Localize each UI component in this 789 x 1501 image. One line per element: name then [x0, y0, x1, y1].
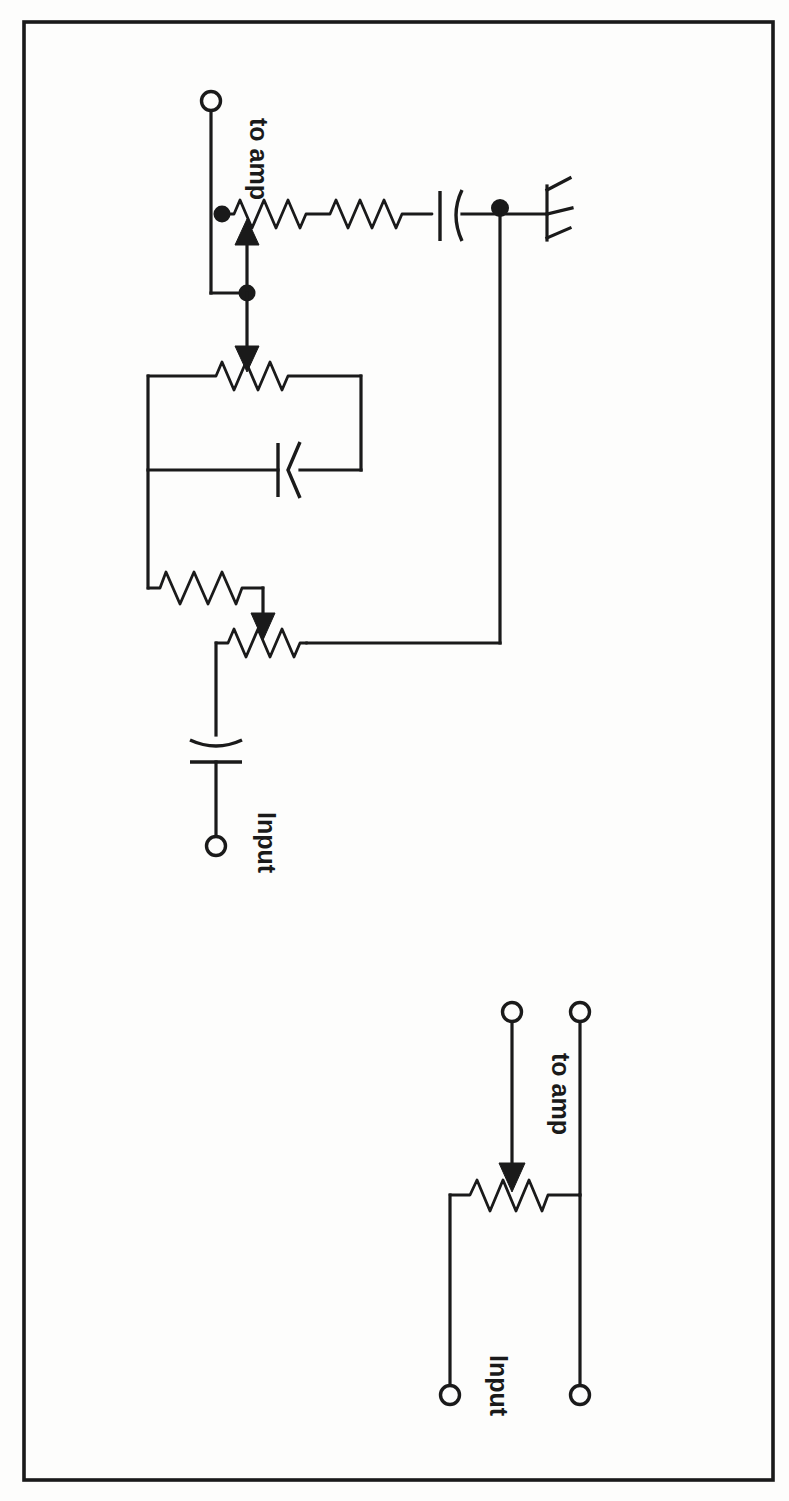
- circuit-schematic-canvas: to amp Input to amp Input: [0, 0, 789, 1501]
- input-cap-plate-curved-upper: [190, 740, 242, 746]
- schematic-page: to amp Input to amp Input: [0, 0, 789, 1501]
- input-return-terminal-lower[interactable]: [571, 1386, 590, 1405]
- series-resistor-body: [148, 572, 263, 604]
- junction-dot-treble-left: [214, 206, 231, 223]
- volume-wiper-arrow-icon-lower: [499, 1163, 525, 1192]
- to-amp-terminal-upper[interactable]: [202, 92, 221, 111]
- label-to-amp-upper: to amp: [245, 118, 273, 200]
- upper-circuit: [148, 92, 572, 856]
- label-to-amp-lower: to amp: [547, 1053, 575, 1135]
- input-terminal-lower[interactable]: [441, 1386, 460, 1405]
- to-amp-terminal-lower[interactable]: [503, 1003, 522, 1022]
- label-input-upper: Input: [253, 812, 281, 874]
- bass-pot-resistor-body: [148, 362, 361, 390]
- to-amp-return-terminal-lower[interactable]: [571, 1003, 590, 1022]
- ground-symbol: [547, 178, 572, 240]
- ground-stroke-1: [547, 178, 570, 190]
- ground-stroke-2: [547, 208, 572, 214]
- bass-cap-plate-curved: [288, 442, 300, 498]
- bass-wiper-arrow-icon: [235, 346, 259, 372]
- label-input-lower: Input: [485, 1355, 513, 1417]
- treble-pot-resistor-body: [222, 200, 432, 228]
- ground-stroke-3: [547, 228, 570, 238]
- figure-border: [24, 22, 773, 1480]
- input-terminal-upper[interactable]: [207, 837, 226, 856]
